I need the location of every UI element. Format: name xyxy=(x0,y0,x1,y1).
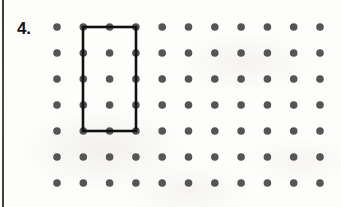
rectangle-shape xyxy=(0,0,341,207)
worksheet-page: 4. xyxy=(0,0,341,207)
rectangle-outline xyxy=(83,27,136,131)
